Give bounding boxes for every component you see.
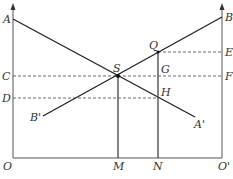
label-O: O [3, 160, 12, 173]
diagram: A B C D E F G H Q S A' B' O O' M N [0, 0, 233, 179]
label-E: E [224, 46, 233, 59]
label-O-prime: O' [218, 160, 230, 173]
label-A-prime: A' [193, 118, 205, 131]
label-H: H [160, 86, 171, 99]
label-C: C [2, 70, 11, 83]
label-G: G [161, 63, 170, 76]
solid-lines [13, 17, 222, 158]
right-axis-arrow-icon [220, 3, 225, 10]
label-N: N [152, 160, 163, 173]
label-B: B [224, 11, 233, 24]
left-axis-arrow-icon [11, 3, 16, 10]
label-A: A [2, 13, 11, 26]
label-F: F [224, 70, 233, 83]
label-M: M [112, 160, 125, 173]
label-B-prime: B' [29, 111, 41, 124]
label-S: S [113, 62, 121, 75]
labels: A B C D E F G H Q S A' B' O O' M N [1, 11, 233, 173]
label-D: D [1, 92, 11, 105]
label-Q: Q [149, 39, 158, 52]
line-B-prime-B [43, 17, 222, 116]
